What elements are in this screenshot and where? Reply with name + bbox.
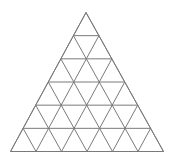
grid-line-right-parallel [23, 128, 36, 151]
triangle-grid-svg [0, 0, 174, 160]
grid-line-left-parallel [138, 128, 151, 151]
grid-line-left-parallel [36, 36, 99, 152]
triangle-grid-diagram [0, 0, 174, 160]
grid-line-right-parallel [73, 36, 138, 152]
